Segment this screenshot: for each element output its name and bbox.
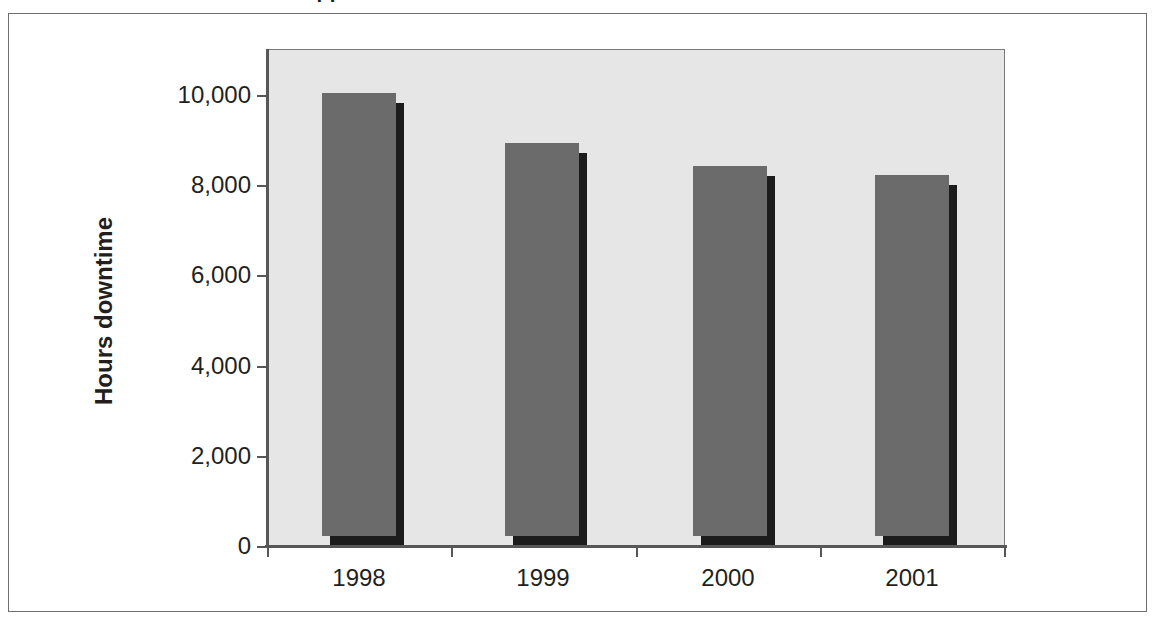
y-axis-title: Hours downtime <box>90 181 118 441</box>
y-tick-label-4000: 4,000 <box>131 352 251 380</box>
y-tick-mark-10000 <box>257 95 267 97</box>
bar-1998[interactable] <box>322 93 404 546</box>
y-tick-mark-4000 <box>257 366 267 368</box>
y-tick-label-6000: 6,000 <box>131 261 251 289</box>
y-tick-label-8000: 8,000 <box>131 171 251 199</box>
bar-chart: 10,000 8,000 6,000 4,000 2,000 0 1998 19… <box>0 0 1163 629</box>
bar-face-1998 <box>322 93 396 536</box>
bar-1999[interactable] <box>505 143 587 546</box>
x-tick-label-2001: 2001 <box>842 564 982 592</box>
y-tick-label-0: 0 <box>131 532 251 560</box>
plot-area <box>267 49 1005 546</box>
x-tick-mark-3 <box>820 546 822 557</box>
x-tick-mark-4 <box>1004 546 1006 557</box>
bar-2001[interactable] <box>875 175 957 546</box>
x-tick-mark-2 <box>636 546 638 557</box>
bar-face-1999 <box>505 143 579 536</box>
y-tick-mark-8000 <box>257 185 267 187</box>
x-tick-label-1998: 1998 <box>289 564 429 592</box>
x-tick-label-2000: 2000 <box>658 564 798 592</box>
bar-2000[interactable] <box>693 166 775 546</box>
x-tick-mark-0 <box>267 546 269 557</box>
y-axis-line <box>266 49 269 547</box>
bar-face-2000 <box>693 166 767 536</box>
x-tick-mark-1 <box>451 546 453 557</box>
y-tick-mark-2000 <box>257 456 267 458</box>
y-tick-mark-0 <box>257 546 267 548</box>
y-tick-label-2000: 2,000 <box>131 442 251 470</box>
y-tick-mark-6000 <box>257 275 267 277</box>
bar-face-2001 <box>875 175 949 536</box>
y-tick-label-10000: 10,000 <box>131 81 251 109</box>
x-tick-label-1999: 1999 <box>473 564 613 592</box>
